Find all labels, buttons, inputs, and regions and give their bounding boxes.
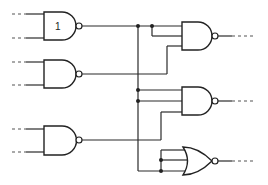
nand-gate-3	[44, 126, 82, 155]
input-lines	[12, 14, 44, 152]
nand-gate-4	[182, 22, 256, 50]
gate-label: 1	[55, 21, 61, 32]
junction-dots	[136, 24, 163, 173]
nand-gate-1: 1	[44, 12, 82, 40]
nor-gate-6	[183, 147, 256, 175]
logic-circuit-diagram: 1	[0, 0, 268, 185]
wiring	[82, 26, 189, 171]
nand-gate-2	[44, 60, 82, 88]
nand-gate-5	[182, 87, 256, 115]
